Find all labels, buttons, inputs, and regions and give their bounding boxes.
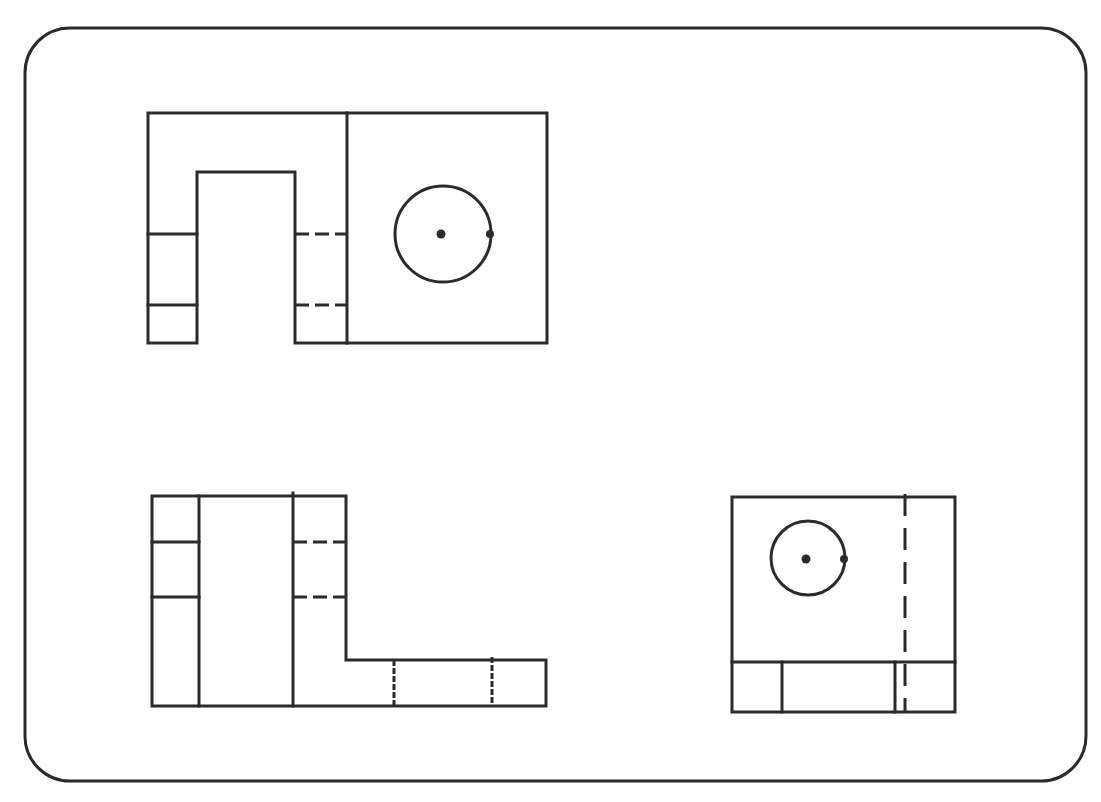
front-view-outline [152,496,546,706]
front-view [152,493,546,706]
top-view [148,113,547,343]
side-view [732,494,955,712]
side-view-hole-edge-dot [840,555,848,563]
technical-drawing-sheet [0,0,1101,802]
top-view-hole-edge-dot [486,230,494,238]
side-view-hole-center-dot [802,555,811,564]
drawing-frame [25,28,1086,781]
top-view-hole-center-dot [437,230,446,239]
side-view-outline [732,497,955,712]
drawing-canvas [0,0,1101,802]
